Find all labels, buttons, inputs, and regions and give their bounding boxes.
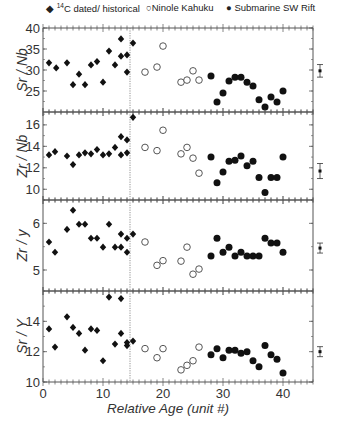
open-circle-marker-icon xyxy=(160,43,167,50)
open-circle-marker-icon xyxy=(178,367,185,374)
filled-circle-marker-icon xyxy=(274,239,281,246)
open-circle-marker-icon xyxy=(196,170,203,177)
y-tick-label: 6 xyxy=(33,216,40,231)
filled-circle-marker-icon xyxy=(214,235,221,242)
filled-circle-marker-icon xyxy=(220,354,227,361)
open-circle-marker-icon xyxy=(154,147,161,154)
diamond-marker-icon xyxy=(112,244,118,251)
x-tick-label: 20 xyxy=(156,386,170,401)
filled-circle-marker-icon xyxy=(226,158,233,165)
diamond-marker-icon xyxy=(106,293,112,300)
filled-circle-marker-icon xyxy=(238,350,245,357)
filled-circle-marker-icon xyxy=(226,347,233,354)
filled-circle-marker-icon xyxy=(226,244,233,251)
diamond-marker-icon xyxy=(124,249,130,256)
filled-circle-marker-icon xyxy=(268,351,275,358)
diamond-marker-icon xyxy=(52,148,58,155)
filled-circle-marker-icon xyxy=(268,239,275,246)
error-bar-icon xyxy=(319,247,322,250)
open-circle-marker-icon xyxy=(160,257,167,264)
open-circle-marker-icon xyxy=(184,77,191,84)
diamond-marker-icon xyxy=(88,61,94,68)
diamond-marker-icon xyxy=(64,152,70,159)
filled-circle-marker-icon xyxy=(280,88,287,95)
error-bar-icon xyxy=(319,69,322,72)
diamond-marker-icon xyxy=(130,40,136,47)
filled-circle-marker-icon xyxy=(232,157,239,164)
diamond-marker-icon xyxy=(112,144,118,151)
filled-circle-marker-icon xyxy=(214,179,221,186)
diamond-marker-icon xyxy=(94,235,100,242)
diamond-marker-icon xyxy=(53,64,59,71)
filled-circle-marker-icon xyxy=(244,79,251,86)
open-circle-marker-icon xyxy=(196,77,203,84)
filled-circle-marker-icon xyxy=(262,189,269,196)
diamond-marker-icon xyxy=(94,58,100,65)
diamond-marker-icon xyxy=(118,295,124,302)
filled-circle-marker-icon xyxy=(232,347,239,354)
diamond-marker-icon xyxy=(88,150,94,157)
diamond-marker-icon xyxy=(118,53,124,60)
diamond-marker-icon xyxy=(82,347,88,354)
panel-sry: 101214Sr / Y xyxy=(14,287,323,390)
filled-circle-marker-icon xyxy=(256,363,263,370)
diamond-marker-icon xyxy=(82,221,88,228)
filled-circle-marker-icon xyxy=(238,249,245,256)
filled-circle-marker-icon xyxy=(238,74,245,81)
filled-circle-marker-icon xyxy=(256,253,263,260)
filled-circle-marker-icon xyxy=(244,348,251,355)
diamond-marker-icon xyxy=(106,48,112,55)
filled-circle-marker-icon xyxy=(208,253,215,260)
open-circle-marker-icon xyxy=(184,244,191,251)
x-tick-label: 30 xyxy=(216,386,230,401)
open-circle-marker-icon xyxy=(190,271,197,278)
diamond-marker-icon xyxy=(124,136,130,143)
filled-circle-marker-icon xyxy=(256,174,263,181)
diamond-marker-icon xyxy=(82,149,88,156)
y-axis-label: Sr / Nb xyxy=(14,48,30,92)
open-circle-marker-icon xyxy=(160,345,167,352)
filled-circle-marker-icon xyxy=(280,249,287,256)
diamond-marker-icon xyxy=(76,71,82,78)
y-tick-label: 10 xyxy=(26,182,40,197)
diamond-marker-icon xyxy=(64,226,70,233)
diamond-marker-icon xyxy=(124,149,130,156)
diamond-marker-icon xyxy=(88,235,94,242)
diamond-marker-icon xyxy=(70,161,76,168)
diamond-marker-icon xyxy=(118,151,124,158)
diamond-marker-icon xyxy=(112,61,118,68)
filled-circle-marker-icon xyxy=(250,82,257,89)
filled-circle-marker-icon xyxy=(232,253,239,260)
filled-circle-marker-icon xyxy=(262,235,269,242)
diamond-marker-icon xyxy=(64,59,70,66)
filled-circle-marker-icon xyxy=(238,153,245,160)
diamond-marker-icon xyxy=(46,325,52,332)
open-circle-marker-icon xyxy=(184,362,191,369)
diamond-marker-icon xyxy=(124,235,130,242)
diamond-marker-icon xyxy=(76,151,82,158)
filled-circle-marker-icon xyxy=(208,72,215,79)
y-axis-label: Zr / y xyxy=(14,229,30,263)
filled-circle-marker-icon xyxy=(274,174,281,181)
filled-circle-marker-icon xyxy=(214,98,221,105)
diamond-marker-icon xyxy=(70,207,76,214)
diamond-marker-icon xyxy=(130,337,136,344)
filled-circle-marker-icon xyxy=(280,154,287,161)
y-tick-label: 16 xyxy=(26,117,40,132)
diamond-marker-icon xyxy=(76,221,82,228)
x-tick-label: 10 xyxy=(96,386,110,401)
diamond-marker-icon xyxy=(118,35,124,42)
filled-circle-marker-icon xyxy=(232,74,239,81)
filled-circle-marker-icon xyxy=(226,77,233,84)
open-circle-marker-icon xyxy=(184,144,191,151)
open-circle-marker-icon xyxy=(154,354,161,361)
open-circle-marker-icon xyxy=(190,357,197,364)
diamond-marker-icon xyxy=(100,244,106,251)
diamond-marker-icon xyxy=(94,146,100,153)
diamond-marker-icon xyxy=(52,344,58,351)
y-axis-label: Sr / Y xyxy=(14,317,30,353)
open-circle-marker-icon xyxy=(196,344,203,351)
diamond-marker-icon xyxy=(106,150,112,157)
filled-circle-marker-icon xyxy=(244,253,251,260)
filled-circle-marker-icon xyxy=(250,253,257,260)
